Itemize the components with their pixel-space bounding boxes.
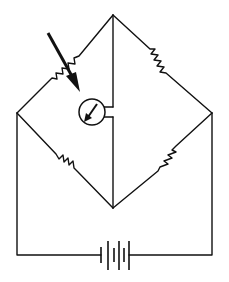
battery-icon: [101, 241, 129, 270]
resistor-r3: [17, 113, 113, 208]
battery-loop: [17, 113, 212, 255]
resistor-r4: [113, 113, 212, 208]
circuit-diagram: [0, 0, 229, 282]
galvanometer-icon: [79, 99, 105, 125]
resistor-r2: [113, 15, 212, 113]
